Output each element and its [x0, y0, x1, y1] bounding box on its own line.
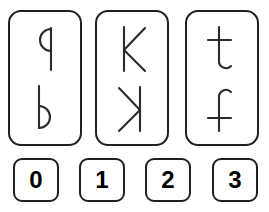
puzzle-stage: 0 1 2 3 [0, 0, 269, 212]
answer-button-1[interactable]: 1 [79, 158, 125, 202]
letter-q-icon [28, 23, 62, 75]
letter-t-flipped-icon [205, 85, 239, 133]
glyph-top-card-1 [97, 18, 167, 80]
letter-t-icon [205, 25, 239, 73]
letter-k-mirrored-icon [115, 85, 149, 133]
glyph-top-card-2 [187, 18, 257, 80]
letter-b-icon [28, 83, 62, 135]
card-row [0, 0, 269, 152]
glyph-top-card-0 [10, 18, 80, 80]
glyph-card-0[interactable] [8, 10, 82, 146]
glyph-bottom-card-0 [10, 78, 80, 140]
glyph-bottom-card-1 [97, 78, 167, 140]
answer-button-3[interactable]: 3 [212, 158, 258, 202]
answer-button-row: 0 1 2 3 [0, 155, 269, 212]
letter-k-icon [115, 25, 149, 73]
glyph-bottom-card-2 [187, 78, 257, 140]
glyph-card-2[interactable] [185, 10, 259, 146]
answer-button-0[interactable]: 0 [13, 158, 59, 202]
answer-button-2[interactable]: 2 [145, 158, 191, 202]
glyph-card-1[interactable] [95, 10, 169, 146]
